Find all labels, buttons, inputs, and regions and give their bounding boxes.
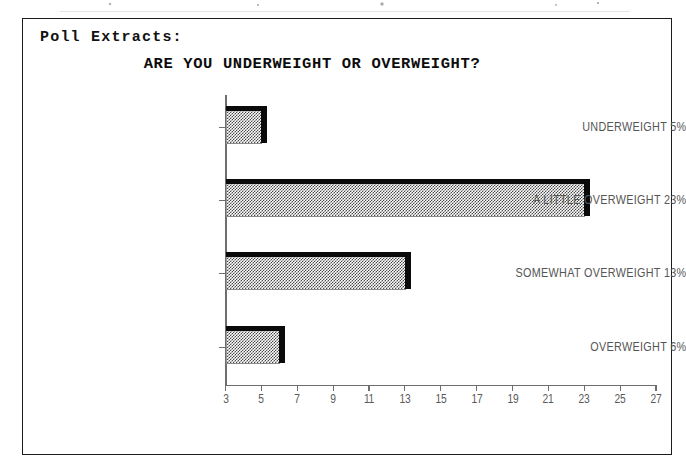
- chart-frame: [22, 18, 672, 455]
- poll-extracts-label: Poll Extracts:: [40, 29, 183, 46]
- chart-title: ARE YOU UNDERWEIGHT OR OVERWEIGHT?: [0, 55, 655, 73]
- scan-noise: [0, 0, 686, 14]
